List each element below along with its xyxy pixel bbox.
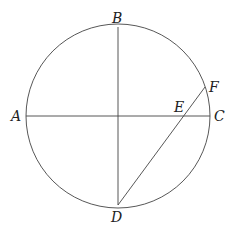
label-e: E	[173, 99, 184, 115]
label-d: D	[110, 209, 122, 225]
label-b: B	[111, 10, 122, 26]
label-c: C	[214, 108, 225, 124]
label-f: F	[208, 79, 220, 95]
label-a: A	[9, 108, 21, 124]
chord-df	[118, 87, 205, 205]
geometry-diagram: A B C D E F	[0, 0, 235, 231]
